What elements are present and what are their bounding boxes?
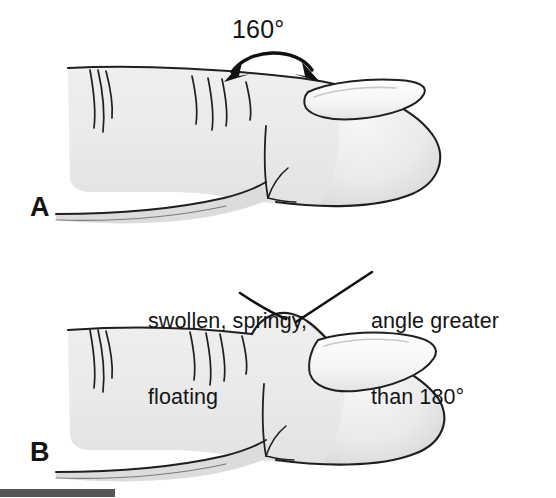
footer-rule-bar xyxy=(0,489,115,497)
callout-swollen-line-1: swollen, springy, xyxy=(148,309,307,334)
callout-angle-line-1: angle greater xyxy=(371,309,499,334)
figure-finger-clubbing: 160° swollen, springy, floating angle gr… xyxy=(0,0,556,498)
callout-angle-greater-than-180: angle greater than 180° xyxy=(371,258,499,461)
callout-swollen-line-2: floating xyxy=(148,385,307,410)
callout-angle-line-2: than 180° xyxy=(371,385,499,410)
panel-label-a: A xyxy=(30,192,50,224)
leader-line-angle xyxy=(296,272,372,322)
panel-a-normal-finger xyxy=(56,53,440,223)
callout-swollen-springy-floating: swollen, springy, floating xyxy=(148,258,307,461)
angle-label-160: 160° xyxy=(232,15,285,45)
panel-label-b: B xyxy=(30,437,50,469)
